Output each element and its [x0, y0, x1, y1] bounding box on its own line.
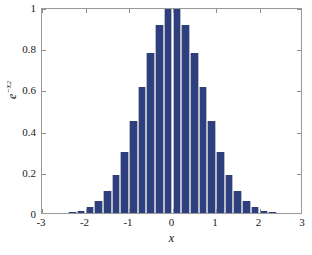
y-axis-title-exponent-power: 2	[5, 81, 13, 85]
bar	[146, 53, 155, 213]
bar	[86, 207, 95, 213]
figure: -3-2-10123 00.20.40.60.81 x e−x2	[0, 0, 312, 255]
bar	[268, 212, 277, 213]
x-tick-label: -1	[123, 216, 132, 228]
y-tick-right	[297, 174, 301, 175]
x-tick	[173, 209, 174, 213]
bar	[59, 213, 68, 214]
x-axis-title: x	[41, 231, 302, 246]
bar	[216, 152, 225, 213]
bar	[94, 201, 103, 213]
y-tick	[42, 9, 46, 10]
y-tick-label: 1	[0, 2, 36, 14]
bar	[199, 87, 208, 213]
bar-series	[42, 9, 301, 213]
x-tick-top	[173, 9, 174, 13]
x-tick	[42, 209, 43, 213]
x-tick-label: 1	[212, 216, 218, 228]
y-tick-right	[297, 50, 301, 51]
bar	[225, 175, 234, 213]
y-tick-label: 0	[0, 208, 36, 220]
bar	[190, 53, 199, 213]
bar	[173, 9, 182, 213]
x-tick-label: 0	[169, 216, 175, 228]
x-tick-label: 2	[256, 216, 262, 228]
x-tick-label: -2	[80, 216, 89, 228]
y-tick	[42, 91, 46, 92]
x-tick	[86, 209, 87, 213]
y-tick	[42, 174, 46, 175]
bar	[112, 175, 121, 213]
x-tick-label: -3	[36, 216, 45, 228]
y-tick-right	[297, 133, 301, 134]
bar	[181, 25, 190, 213]
y-axis-title: e−x2	[4, 60, 20, 120]
y-tick	[42, 50, 46, 51]
y-axis-title-exponent: −x2	[4, 81, 13, 93]
y-tick-right	[297, 91, 301, 92]
x-tick-top	[216, 9, 217, 13]
x-tick	[260, 209, 261, 213]
bar	[277, 213, 286, 214]
y-axis-title-base: e	[5, 94, 19, 99]
bar	[164, 9, 173, 213]
bar	[251, 207, 260, 213]
x-tick-top	[260, 9, 261, 13]
y-tick-label: 0.4	[0, 126, 36, 138]
bar	[233, 191, 242, 213]
bar	[120, 152, 129, 213]
bar	[207, 121, 216, 213]
y-tick	[42, 133, 46, 134]
y-tick-right	[297, 9, 301, 10]
y-tick-label: 0.8	[0, 43, 36, 55]
bar	[68, 212, 77, 213]
bar	[129, 121, 138, 213]
bar	[260, 211, 269, 213]
x-tick	[216, 209, 217, 213]
x-tick-label: 3	[299, 216, 305, 228]
y-tick-label: 0.2	[0, 167, 36, 179]
plot-area	[41, 8, 302, 214]
x-tick-top	[129, 9, 130, 13]
bar	[103, 191, 112, 213]
bar	[77, 211, 86, 213]
bar	[242, 201, 251, 213]
x-tick	[129, 209, 130, 213]
x-tick-top	[86, 9, 87, 13]
bar	[138, 87, 147, 213]
bar	[155, 25, 164, 213]
